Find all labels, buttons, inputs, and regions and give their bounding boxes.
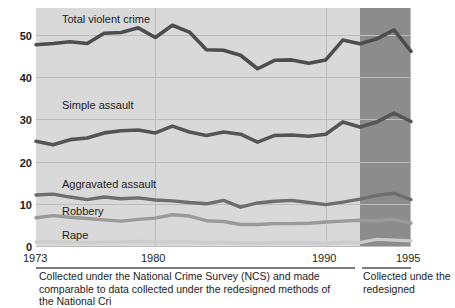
caption-rule-left (36, 267, 355, 269)
caption-redesign: Collected unde the redesigned (363, 270, 455, 295)
caption-rule-right (362, 267, 411, 269)
plot-area: Total violent crime Simple assault Aggra… (36, 8, 411, 247)
series-line-simple-assault (36, 113, 411, 145)
y-tick-10: 10 (2, 200, 32, 211)
series-line-rape (36, 239, 411, 243)
series-line-total-violent-crime (36, 25, 411, 68)
series-label-rape: Rape (62, 229, 88, 241)
series-label-total-violent-crime: Total violent crime (62, 13, 150, 25)
series-label-aggravated-assault: Aggravated assault (62, 178, 156, 190)
caption-ncs: Collected under the National Crime Surve… (39, 270, 339, 308)
x-tick-1990: 1990 (312, 253, 336, 264)
series-label-simple-assault: Simple assault (62, 99, 134, 111)
x-tick-1995: 1995 (396, 253, 420, 264)
x-tick-1980: 1980 (141, 253, 165, 264)
y-tick-20: 20 (2, 158, 32, 169)
y-tick-30: 30 (2, 115, 32, 126)
series-label-robbery: Robbery (62, 205, 104, 217)
y-tick-40: 40 (2, 73, 32, 84)
y-axis-labels: 50 40 30 20 10 0 (0, 0, 32, 291)
x-tick-1973: 1973 (23, 253, 47, 264)
y-tick-50: 50 (2, 31, 32, 42)
